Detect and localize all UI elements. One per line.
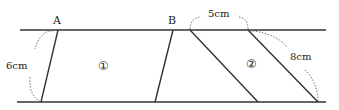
shape2-right-side [248, 30, 318, 102]
shape1-label: ① [98, 59, 109, 73]
height-label: 6cm [6, 60, 28, 71]
side-label: 8cm [290, 51, 312, 62]
shape2-label: ② [246, 57, 257, 71]
shape1-right-side [155, 30, 173, 102]
shape1-left-side [41, 30, 58, 102]
side-dimension-arc-bottom [305, 70, 318, 101]
gap-dimension-arc-left [190, 17, 200, 29]
point-b-label: B [168, 14, 176, 27]
gap-dimension-arc-right [239, 17, 248, 29]
height-dimension-arc-top [35, 31, 53, 49]
point-a-label: A [52, 14, 62, 27]
height-dimension-arc-bottom [30, 77, 40, 101]
diagram-canvas: A B 6cm ① 5cm ② 8cm [0, 0, 339, 110]
top-gap-label: 5cm [208, 8, 230, 19]
diagram: A B 6cm ① 5cm ② 8cm [0, 0, 339, 110]
side-dimension-arc-top [250, 31, 287, 47]
